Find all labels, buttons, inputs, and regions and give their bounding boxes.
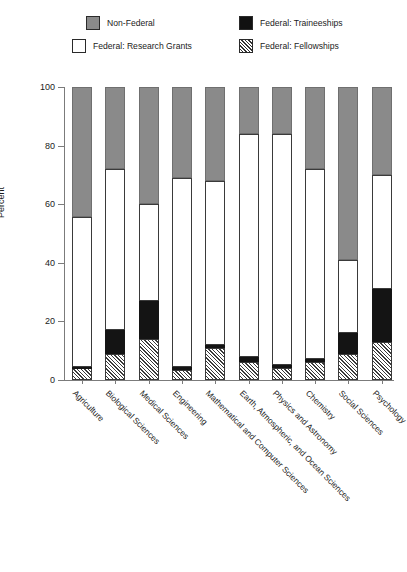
y-tick-label: 60 (45, 200, 55, 209)
segment-hatched (139, 339, 159, 380)
segment-white (172, 178, 192, 367)
segment-gray (305, 87, 325, 169)
segment-white (338, 260, 358, 333)
segment-black (305, 359, 325, 362)
segment-hatched (372, 342, 392, 380)
x-tick-mark (315, 380, 316, 384)
y-tick-label: 0 (50, 376, 55, 385)
x-tick-mark (282, 380, 283, 384)
segment-gray (72, 87, 92, 217)
y-tick-mark (58, 87, 64, 88)
x-axis-label: Physics and Astronomy (271, 388, 340, 457)
y-tick-mark (58, 204, 64, 205)
segment-gray (338, 87, 358, 260)
x-axis-label: Agriculture (71, 388, 106, 423)
bar-mathematical-and-computer-sciences (205, 87, 225, 380)
segment-hatched (305, 362, 325, 380)
segment-hatched (72, 368, 92, 380)
x-tick-mark (215, 380, 216, 384)
x-tick-mark (182, 380, 183, 384)
segment-white (205, 181, 225, 345)
x-tick-mark (382, 380, 383, 384)
y-axis-line (64, 87, 65, 380)
segment-black (372, 289, 392, 342)
segment-black (272, 365, 292, 368)
y-axis-title: Percent (0, 187, 6, 218)
y-tick-mark (58, 263, 64, 264)
x-axis-label: Chemistry (304, 388, 338, 422)
segment-gray (172, 87, 192, 178)
bar-biological-sciences (105, 87, 125, 380)
bar-earth-atmospheric-and-ocean-sciences (239, 87, 259, 380)
segment-hatched (239, 362, 259, 380)
y-tick-label: 100 (40, 83, 55, 92)
bar-agriculture (72, 87, 92, 380)
segment-hatched (338, 354, 358, 380)
segment-gray (205, 87, 225, 181)
x-axis-line (64, 380, 394, 381)
bar-physics-and-astronomy (272, 87, 292, 380)
bar-engineering (172, 87, 192, 380)
segment-white (272, 134, 292, 365)
segment-gray (372, 87, 392, 175)
x-tick-mark (82, 380, 83, 384)
segment-hatched (272, 368, 292, 380)
segment-white (139, 204, 159, 301)
bar-psychology (372, 87, 392, 380)
segment-black (139, 301, 159, 339)
x-tick-mark (149, 380, 150, 384)
segment-gray (272, 87, 292, 134)
x-tick-mark (115, 380, 116, 384)
segment-white (72, 217, 92, 366)
segment-white (239, 134, 259, 357)
y-tick-label: 80 (45, 141, 55, 150)
segment-black (239, 357, 259, 363)
segment-hatched (205, 348, 225, 380)
segment-black (205, 345, 225, 348)
y-tick-mark (58, 380, 64, 381)
segment-gray (105, 87, 125, 169)
segment-gray (239, 87, 259, 134)
stacked-bar-chart: Percent 020406080100 AgricultureBiologic… (0, 0, 407, 572)
segment-white (105, 169, 125, 330)
segment-black (338, 333, 358, 354)
segment-hatched (172, 370, 192, 380)
bar-social-sciences (338, 87, 358, 380)
y-tick-mark (58, 146, 64, 147)
segment-white (305, 169, 325, 359)
bar-medical-sciences (139, 87, 159, 380)
y-tick-label: 20 (45, 317, 55, 326)
segment-black (105, 330, 125, 353)
segment-hatched (105, 354, 125, 380)
x-tick-mark (249, 380, 250, 384)
segment-gray (139, 87, 159, 204)
segment-black (72, 367, 92, 369)
y-tick-label: 40 (45, 258, 55, 267)
segment-white (372, 175, 392, 289)
x-tick-mark (348, 380, 349, 384)
bar-chemistry (305, 87, 325, 380)
segment-black (172, 367, 192, 370)
y-tick-mark (58, 321, 64, 322)
